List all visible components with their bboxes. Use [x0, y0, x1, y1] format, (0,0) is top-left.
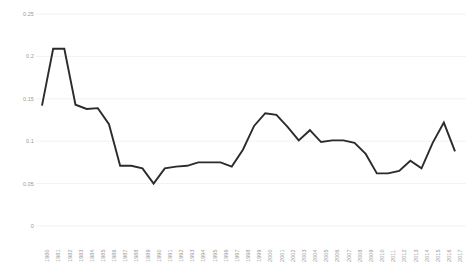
- x-tick-label: 2017: [457, 249, 463, 262]
- y-tick-label: 0.05: [23, 181, 34, 187]
- x-tick-label: 2014: [424, 249, 430, 262]
- x-tick-label: 2008: [357, 249, 363, 262]
- y-axis: 00.050.10.150.20.25: [0, 0, 34, 266]
- x-tick-label: 2001: [279, 249, 285, 262]
- x-tick-label: 2007: [346, 249, 352, 262]
- x-tick-label: 1998: [245, 249, 251, 262]
- x-tick-label: 2011: [390, 250, 396, 262]
- x-tick-label: 2012: [401, 249, 407, 262]
- x-tick-label: 2009: [368, 249, 374, 262]
- x-tick-label: 1999: [256, 249, 262, 262]
- x-tick-label: 2002: [290, 249, 296, 262]
- x-tick-label: 2016: [446, 249, 452, 262]
- x-tick-label: 1992: [178, 249, 184, 262]
- x-tick-label: 1982: [67, 249, 73, 262]
- x-tick-label: 2006: [334, 249, 340, 262]
- x-tick-label: 1987: [122, 249, 128, 262]
- x-tick-label: 1993: [189, 249, 195, 262]
- x-tick-label: 1991: [167, 249, 173, 262]
- x-tick-label: 1997: [234, 249, 240, 262]
- x-tick-label: 2003: [301, 249, 307, 262]
- y-tick-label: 0.25: [23, 11, 34, 17]
- line-chart: 00.050.10.150.20.25 19801981198219831984…: [0, 0, 470, 266]
- x-tick-label: 1985: [100, 249, 106, 262]
- x-tick-label: 1986: [111, 249, 117, 262]
- y-tick-label: 0.1: [26, 138, 34, 144]
- x-tick-label: 1983: [78, 249, 84, 262]
- x-tick-label: 2015: [435, 249, 441, 262]
- x-tick-label: 2004: [312, 249, 318, 262]
- y-tick-label: 0.2: [26, 53, 34, 59]
- x-tick-label: 1995: [212, 249, 218, 262]
- x-tick-label: 1990: [156, 249, 162, 262]
- y-tick-label: 0.15: [23, 96, 34, 102]
- x-tick-label: 2000: [267, 249, 273, 262]
- x-tick-label: 1981: [55, 249, 61, 262]
- x-axis: 1980198119821983198419851986198719881989…: [36, 0, 466, 266]
- x-tick-label: 1988: [133, 249, 139, 262]
- x-tick-label: 1994: [200, 249, 206, 262]
- y-tick-label: 0: [31, 223, 34, 229]
- x-tick-label: 2010: [379, 249, 385, 262]
- x-tick-label: 2013: [413, 249, 419, 262]
- x-tick-label: 1996: [223, 249, 229, 262]
- x-tick-label: 1984: [89, 249, 95, 262]
- x-tick-label: 2005: [323, 249, 329, 262]
- x-tick-label: 1980: [44, 249, 50, 262]
- x-tick-label: 1989: [145, 249, 151, 262]
